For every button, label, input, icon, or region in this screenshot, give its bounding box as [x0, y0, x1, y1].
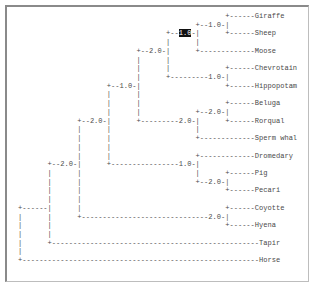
tree-line-text: | | +--2.0-| [18, 178, 229, 186]
tree-line-text: +--2.0-| +---------2.0-| +------Rorqual [18, 117, 284, 125]
tree-line-text: | | +------Chevrotain [18, 64, 297, 72]
tree-line: | | [18, 143, 297, 152]
tree-line-text: | | [18, 38, 200, 46]
tree-line: | [18, 247, 297, 256]
tree-line: | | +------Chevrotain [18, 64, 297, 73]
tree-line-text: +--1.0-| [18, 21, 229, 29]
tree-line-text: +------| | +------Coyotte [18, 204, 284, 212]
tree-line-text: | | +-------------Sperm whal [18, 134, 297, 142]
tree-line: +--2.0-| +---------2.0-| +------Rorqual [18, 117, 297, 126]
tree-line: +--1.0-| [18, 21, 297, 30]
tree-line-text: +---------------------------------------… [18, 256, 280, 264]
tree-line: | | [18, 56, 297, 65]
tree-line: | +---------1.0-| [18, 73, 297, 82]
tree-line-text: | | +--2.0-| [18, 108, 229, 116]
tree-line-text: | | +-------------Dromedary [18, 152, 293, 160]
tree-line: | | +------Beluga [18, 99, 297, 108]
tree-line-text: | | +------Beluga [18, 99, 280, 107]
tree-line-text: | | +------------------------------2.0-| [18, 213, 229, 221]
tree-line-text: | | [18, 90, 141, 98]
tree-line: +--2.0-| +----------------1.0-| [18, 160, 297, 169]
tree-line-text: | [18, 247, 22, 255]
tree-line-text: | | +------Pecari [18, 186, 280, 194]
tree-line-text: | | +------Hyena [18, 221, 276, 229]
tree-line-text: | | [18, 143, 111, 151]
tree-line-text: -| +------Sheep [191, 29, 276, 37]
tree-line: +---------------------------------------… [18, 256, 297, 265]
tree-line-text: | | [18, 195, 81, 203]
tree-line: | +-------------------------------------… [18, 239, 297, 248]
tree-line-text: | | [18, 230, 52, 238]
tree-line-text: +-- [18, 29, 179, 37]
tree-line: +--1.0-| +------Sheep [18, 29, 297, 38]
tree-line: | | | +------Pig [18, 169, 297, 178]
tree-line-text: +------Giraffe [18, 12, 284, 20]
tree-line: +--1.0-| +------Hippopotam [18, 82, 297, 91]
tree-line: | | +------Hyena [18, 221, 297, 230]
tree-line: | | [18, 195, 297, 204]
tree-line: | | +------Pecari [18, 186, 297, 195]
tree-line-text: | +-------------------------------------… [18, 239, 280, 247]
tree-line: +--2.0-| +-------------Moose [18, 47, 297, 56]
tree-line: | | +--2.0-| [18, 108, 297, 117]
tree-line: | | +-------------Sperm whal [18, 134, 297, 143]
tree-line-text: | | | +------Pig [18, 169, 268, 177]
tree-line-text: +--2.0-| +----------------1.0-| [18, 160, 200, 168]
tree-line: | | +-------------Dromedary [18, 152, 297, 161]
ascii-phylogenetic-tree: +------Giraffe +--1.0-| +--1.0-| +------… [18, 12, 297, 265]
selected-branch-label[interactable]: 1.0 [179, 29, 192, 37]
tree-line-text: | | | [18, 125, 200, 133]
tree-line: +------| | +------Coyotte [18, 204, 297, 213]
tree-line-text: +--1.0-| +------Hippopotam [18, 82, 297, 90]
tree-line: | | +--2.0-| [18, 178, 297, 187]
tree-line-text: +--2.0-| +-------------Moose [18, 47, 276, 55]
tree-line: +------Giraffe [18, 12, 297, 21]
tree-line-text: | +---------1.0-| [18, 73, 229, 81]
tree-line: | | +------------------------------2.0-| [18, 213, 297, 222]
tree-line: | | [18, 38, 297, 47]
tree-line: | | [18, 90, 297, 99]
tree-line-text: | | [18, 56, 170, 64]
tree-line: | | | [18, 125, 297, 134]
tree-line: | | [18, 230, 297, 239]
